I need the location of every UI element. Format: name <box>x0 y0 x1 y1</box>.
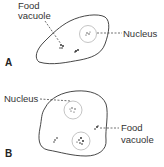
food-vacuole-b-1 <box>53 137 58 143</box>
amoeba-cell-diagram: Food vacuole Nucleus A Nucleus Food vacu… <box>0 0 164 167</box>
label-food-vacuole-b-line1: Food <box>121 122 143 133</box>
food-vacuole-a-2 <box>74 49 79 53</box>
leader-line-nucleus-b <box>40 99 71 101</box>
label-nucleus-a: Nucleus <box>123 28 158 39</box>
label-food-vacuole-b-line2: vacuole <box>121 134 154 145</box>
nucleus-b-1 <box>64 101 82 119</box>
nucleus-b-1-granules <box>70 107 76 112</box>
panel-label-a: A <box>5 57 12 68</box>
leader-line-food-vacuole-a <box>45 21 61 44</box>
nucleus-b-2 <box>72 132 90 150</box>
label-food-vacuole-a-line2: vacuole <box>18 10 51 21</box>
cell-a-membrane <box>36 15 109 64</box>
panel-b: Nucleus Food vacuole B <box>4 91 154 159</box>
nucleus-a <box>80 26 97 43</box>
food-vacuole-a-1 <box>59 44 64 49</box>
nucleus-a-granules <box>85 32 90 36</box>
panel-a: Food vacuole Nucleus A <box>5 0 158 68</box>
food-vacuole-b-2 <box>94 125 99 130</box>
cell-b-membrane <box>39 91 107 156</box>
nucleus-b-2-granules <box>76 137 84 145</box>
panel-label-b: B <box>5 148 12 159</box>
label-nucleus-b: Nucleus <box>4 93 39 104</box>
